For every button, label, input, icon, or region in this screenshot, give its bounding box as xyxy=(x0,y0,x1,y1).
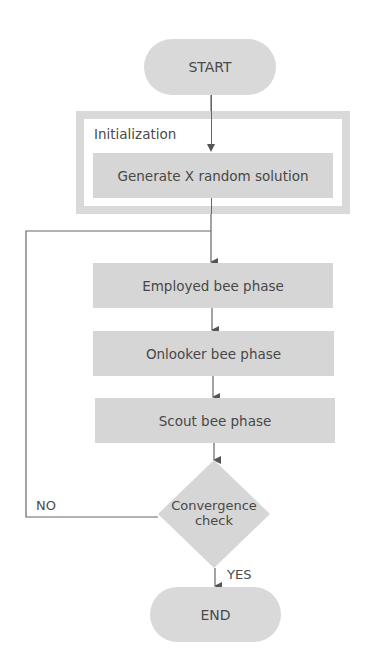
employed-bee-phase-node: Employed bee phase xyxy=(93,263,333,308)
convergence-check-label: Convergence check xyxy=(158,498,270,528)
generate-solution-node: Generate X random solution xyxy=(93,153,333,198)
scout-bee-phase-node: Scout bee phase xyxy=(95,398,335,443)
employed-bee-phase-label: Employed bee phase xyxy=(142,278,284,294)
yes-branch-label: YES xyxy=(227,567,251,582)
onlooker-bee-phase-label: Onlooker bee phase xyxy=(146,346,281,362)
end-node: END xyxy=(150,587,281,642)
arrow-head-icon xyxy=(207,144,215,152)
start-node: START xyxy=(144,39,276,95)
initialization-label: Initialization xyxy=(94,126,176,142)
decision-line-1: Convergence xyxy=(158,498,270,513)
init-connector xyxy=(211,95,212,144)
decision-line-2: check xyxy=(158,513,270,528)
init-exit-connector xyxy=(211,198,212,214)
no-branch-label: NO xyxy=(36,498,56,513)
end-label: END xyxy=(200,607,230,623)
start-label: START xyxy=(188,59,231,75)
generate-solution-label: Generate X random solution xyxy=(118,168,309,184)
onlooker-bee-phase-node: Onlooker bee phase xyxy=(93,331,334,376)
scout-bee-phase-label: Scout bee phase xyxy=(159,413,272,429)
